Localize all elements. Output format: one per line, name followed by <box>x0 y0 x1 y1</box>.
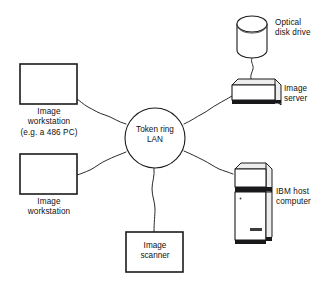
link-hub-to-image-server <box>184 96 232 124</box>
optical-disk-drive-label: Optical disk drive <box>275 18 327 39</box>
ibm-host-computer-label: IBM host computer <box>276 187 328 208</box>
link-hub-to-image-scanner <box>152 168 155 232</box>
image-workstation-486-shape <box>20 64 77 104</box>
image-scanner-label: Image scanner <box>125 241 185 262</box>
image-workstation-label: Image workstation <box>6 197 92 218</box>
link-optical-drive-to-image-server <box>251 58 253 79</box>
network-diagram: Token ring LAN Image workstation (e.g. a… <box>0 0 328 284</box>
token-ring-lan-hub-label: Token ring LAN <box>125 125 185 145</box>
image-workstation-shape <box>20 154 77 194</box>
link-hub-to-workstation-lower <box>77 152 126 175</box>
image-server-shape <box>232 79 281 105</box>
optical-disk-drive-shape <box>237 16 267 58</box>
image-server-label: Image server <box>284 84 328 105</box>
link-hub-to-ibm-host <box>184 151 233 174</box>
image-workstation-486-label: Image workstation (e.g. a 486 PC) <box>6 107 92 138</box>
ibm-host-computer-shape <box>235 163 272 244</box>
